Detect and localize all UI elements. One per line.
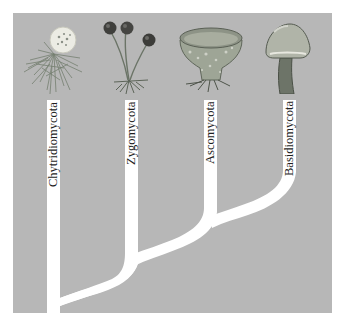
chytrid-illustration-icon [20, 20, 85, 95]
mushroom-illustration-icon [262, 22, 317, 94]
taxon-label-basidiomycota: Basidiomycota [283, 101, 296, 176]
ascomycete-illustration-icon [176, 22, 246, 94]
taxon-label-chytridiomycota: Chytridiomycota [47, 102, 60, 187]
taxon-label-ascomycota: Ascomycota [204, 102, 217, 164]
taxon-label-zygomycota: Zygomycota [125, 102, 138, 165]
zygomycete-illustration-icon [100, 20, 160, 95]
